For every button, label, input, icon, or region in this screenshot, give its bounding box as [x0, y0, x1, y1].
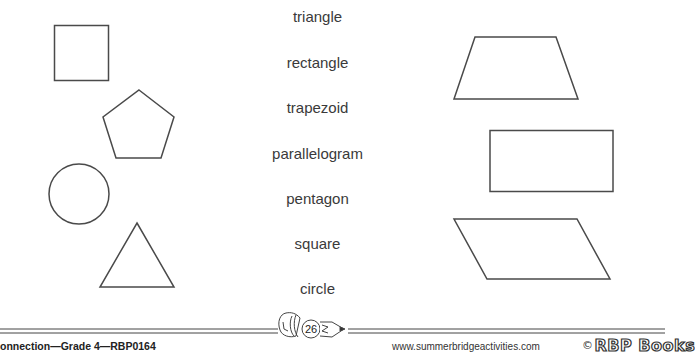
- word-circle: circle: [230, 280, 405, 298]
- word-rectangle: rectangle: [230, 54, 405, 72]
- word-pentagon: pentagon: [230, 190, 405, 208]
- publisher-logo: ©RBP Books: [582, 336, 695, 355]
- circle-shape: [49, 164, 109, 224]
- copyright-symbol: ©: [582, 339, 594, 352]
- word-square: square: [230, 235, 405, 253]
- parallelogram-shape: [454, 219, 610, 279]
- triangle-shape: [100, 223, 174, 287]
- footer-series-label: onnection—Grade 4—RBP0164: [0, 340, 156, 352]
- page-number: 26: [305, 323, 317, 335]
- brand-name: RBP Books: [595, 336, 695, 355]
- square-shape: [55, 26, 109, 81]
- trapezoid-shape: [454, 37, 578, 99]
- rectangle-shape: [490, 131, 613, 192]
- pentagon-shape: [103, 90, 174, 158]
- word-triangle: triangle: [230, 8, 405, 26]
- word-trapezoid: trapezoid: [230, 99, 405, 117]
- footer-url: www.summerbridgeactivities.com: [392, 341, 540, 352]
- word-parallelogram: parallelogram: [230, 145, 405, 163]
